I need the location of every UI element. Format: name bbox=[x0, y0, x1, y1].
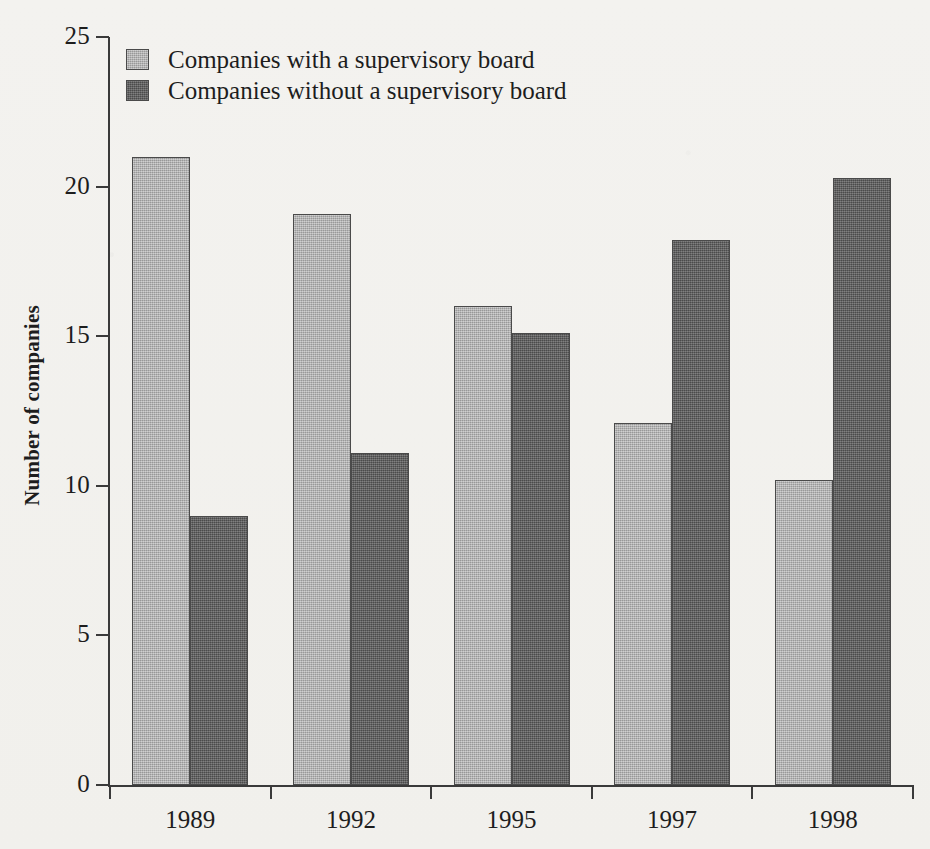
bar-1995-series2[interactable] bbox=[512, 333, 570, 785]
bar-chart: Number of companies 2520151050 198919921… bbox=[0, 0, 930, 849]
x-tick-4 bbox=[751, 785, 753, 799]
y-axis-line bbox=[108, 37, 110, 787]
x-tick-5 bbox=[912, 785, 914, 799]
legend-swatch-dark-square bbox=[126, 80, 149, 101]
y-tick-label-10: 10 bbox=[34, 472, 90, 497]
x-tick-label-1998: 1998 bbox=[763, 806, 903, 834]
bar-1998-series1[interactable] bbox=[775, 480, 833, 785]
bar-1989-series1[interactable] bbox=[132, 157, 190, 785]
y-tick-0 bbox=[96, 784, 109, 786]
y-axis-title: Number of companies bbox=[22, 256, 43, 556]
legend-label-with-board: Companies with a supervisory board bbox=[168, 47, 535, 72]
x-tick-label-1992: 1992 bbox=[281, 806, 421, 834]
bar-1998-series2[interactable] bbox=[833, 178, 891, 785]
y-tick-label-15: 15 bbox=[34, 322, 90, 347]
x-tick-2 bbox=[430, 785, 432, 799]
x-tick-label-1995: 1995 bbox=[442, 806, 582, 834]
y-tick-5 bbox=[96, 634, 109, 636]
bar-1989-series2[interactable] bbox=[190, 516, 248, 785]
bar-1997-series2[interactable] bbox=[672, 240, 730, 785]
legend-item-without-board[interactable]: Companies without a supervisory board bbox=[126, 75, 567, 106]
y-tick-10 bbox=[96, 485, 109, 487]
y-tick-label-25: 25 bbox=[34, 23, 90, 48]
legend-item-with-board[interactable]: Companies with a supervisory board bbox=[126, 44, 567, 75]
y-tick-20 bbox=[96, 186, 109, 188]
chart-legend: Companies with a supervisory board Compa… bbox=[126, 44, 567, 106]
bar-1992-series2[interactable] bbox=[351, 453, 409, 785]
y-tick-15 bbox=[96, 335, 109, 337]
bar-1995-series1[interactable] bbox=[454, 306, 512, 785]
y-tick-25 bbox=[96, 36, 109, 38]
y-tick-label-0: 0 bbox=[34, 771, 90, 796]
x-tick-3 bbox=[591, 785, 593, 799]
x-tick-1 bbox=[270, 785, 272, 799]
x-tick-label-1989: 1989 bbox=[120, 806, 260, 834]
y-tick-label-5: 5 bbox=[34, 621, 90, 646]
bar-1992-series1[interactable] bbox=[293, 214, 351, 785]
y-tick-label-20: 20 bbox=[34, 173, 90, 198]
bar-1997-series1[interactable] bbox=[614, 423, 672, 785]
x-axis-line bbox=[108, 785, 913, 787]
x-tick-label-1997: 1997 bbox=[602, 806, 742, 834]
legend-label-without-board: Companies without a supervisory board bbox=[168, 78, 567, 103]
x-tick-0 bbox=[109, 785, 111, 799]
legend-swatch-light-square bbox=[126, 49, 149, 70]
